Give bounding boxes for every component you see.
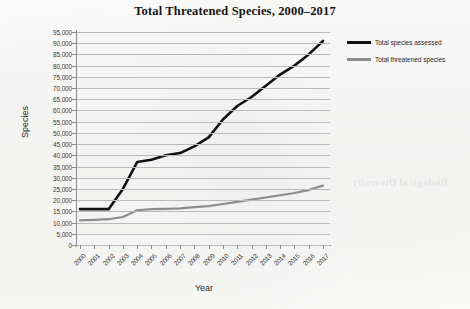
gridline [77,122,330,123]
gridline [77,234,330,235]
x-tick-mark [137,245,138,249]
legend-swatch [347,41,371,44]
x-axis-title: Year [77,283,331,293]
series-line [80,186,323,221]
gridline [77,54,330,55]
y-tick-label: 65,000 [53,96,72,103]
y-tick-label: 75,000 [53,73,72,80]
y-tick-label: 5,000 [57,230,73,237]
y-tick-label: 95,000 [53,29,72,36]
x-tick-mark [109,245,110,249]
x-tick-mark [266,245,267,249]
y-tick-label: 40,000 [53,152,72,159]
y-tick-label: 50,000 [53,129,72,136]
x-tick-mark [151,245,152,249]
x-tick-mark [94,245,95,249]
legend-swatch [347,58,371,61]
x-tick-mark [252,245,253,249]
gridline [77,77,330,78]
x-tick-mark [223,245,224,249]
gridline [77,167,330,168]
legend-label: Total species assessed [375,39,442,46]
y-tick-label: 35,000 [53,163,72,170]
y-tick-label: 70,000 [53,85,72,92]
x-tick-mark [323,245,324,249]
y-axis-tick-labels: 95,00090,00085,00080,00075,00070,00065,0… [0,32,72,245]
y-tick-label: 30,000 [53,174,72,181]
y-tick-label: 10,000 [53,219,72,226]
page-bleedthrough-text: Biological Diversity [352,176,448,188]
chart-legend: Total species assessedTotal threatened s… [347,38,445,72]
gridline [77,43,330,44]
y-tick-label: 25,000 [53,185,72,192]
x-tick-mark [280,245,281,249]
y-tick-label: 80,000 [53,62,72,69]
y-tick-label: 60,000 [53,107,72,114]
x-tick-mark [194,245,195,249]
x-tick-mark [123,245,124,249]
series-lines [77,32,330,245]
gridline [77,200,330,201]
y-axis-title: Species [20,106,30,138]
legend-item[interactable]: Total threatened species [347,55,445,64]
gridline [77,223,330,224]
y-tick-label: 85,000 [53,51,72,58]
y-tick-label: 45,000 [53,141,72,148]
y-tick-label: 20,000 [53,197,72,204]
gridline [77,66,330,67]
gridline [77,211,330,212]
gridline [77,88,330,89]
y-tick-label: 90,000 [53,40,72,47]
gridline [77,133,330,134]
x-tick-mark [80,245,81,249]
chart-title: Total Threatened Species, 2000–2017 [0,4,470,19]
y-tick-label: 15,000 [53,208,72,215]
x-tick-mark [294,245,295,249]
x-tick-mark [209,245,210,249]
gridline [77,189,330,190]
gridline [77,110,330,111]
legend-item[interactable]: Total species assessed [347,38,445,47]
plot-area [77,32,330,245]
gridline [77,245,330,246]
gridline [77,99,330,100]
gridline [77,155,330,156]
y-tick-label: 55,000 [53,118,72,125]
gridline [77,32,330,33]
x-tick-mark [237,245,238,249]
x-tick-mark [309,245,310,249]
legend-label: Total threatened species [375,56,445,63]
x-tick-mark [180,245,181,249]
gridline [77,144,330,145]
x-tick-mark [166,245,167,249]
gridline [77,178,330,179]
